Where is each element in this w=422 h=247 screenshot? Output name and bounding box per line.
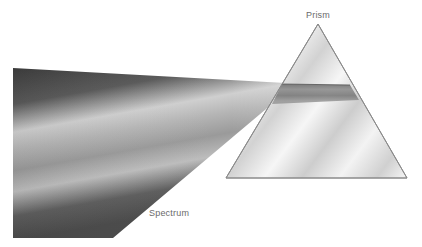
prism-diagram: Prism Spectrum: [0, 0, 422, 247]
spectrum-label: Spectrum: [149, 208, 189, 218]
diagram-graphic: [0, 0, 422, 247]
prism-label: Prism: [306, 10, 330, 20]
